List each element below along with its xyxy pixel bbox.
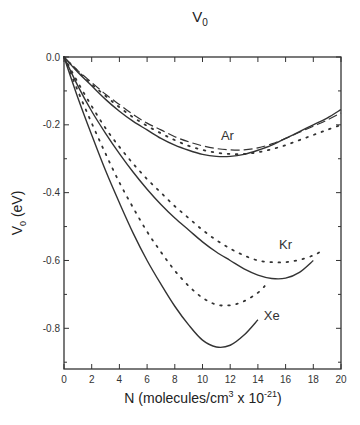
y-axis-ticks: 0.0-0.2-0.4-0.6-0.8 [43,52,341,363]
x-tick-label: 4 [117,374,123,385]
curves [64,57,341,347]
x-axis-label: N (molecules/cm3 x 10-21) [124,389,281,406]
y-tick-label: -0.8 [43,323,61,334]
chart: V0 02468101214161820 0.0-0.2-0.4-0.6-0.8… [0,0,360,425]
curve-label-kr: Kr [279,237,293,252]
x-tick-label: 10 [197,374,209,385]
series-xe-dotted [64,57,265,306]
x-tick-label: 0 [61,374,67,385]
x-tick-label: 2 [89,374,95,385]
x-tick-label: 6 [144,374,150,385]
y-tick-label: -0.6 [43,255,61,266]
chart-title: V0 [192,8,208,28]
curve-labels: ArKrXe [221,128,293,323]
curve-label-xe: Xe [264,308,280,323]
series-xe-solid [64,57,258,347]
series-ar-dashed [64,57,341,150]
x-tick-label: 20 [335,374,347,385]
curve-label-ar: Ar [221,128,235,143]
y-axis-label: V0 (eV) [9,191,28,236]
x-tick-label: 12 [225,374,237,385]
plot-frame [64,57,341,369]
x-tick-label: 16 [280,374,292,385]
series-ar-dotted [64,57,341,154]
x-tick-label: 8 [172,374,178,385]
x-tick-label: 18 [308,374,320,385]
series-kr-solid [64,57,313,279]
y-tick-label: 0.0 [46,52,60,63]
y-tick-label: -0.2 [43,119,61,130]
x-tick-label: 14 [252,374,264,385]
series-ar-solid [64,57,341,157]
y-tick-label: -0.4 [43,187,61,198]
series-kr-dotted [64,57,323,262]
x-axis-ticks: 02468101214161820 [61,57,347,385]
